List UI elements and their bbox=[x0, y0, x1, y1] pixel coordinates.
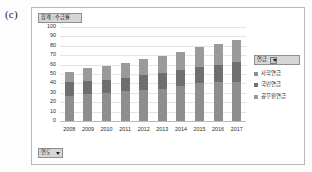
bar-segment[interactable] bbox=[83, 94, 92, 121]
y-axis-tick-label: 70 bbox=[50, 52, 56, 57]
bar-segment[interactable] bbox=[158, 89, 167, 121]
x-axis-tick-label: 2010 bbox=[101, 127, 113, 132]
bar-segment[interactable] bbox=[214, 65, 223, 83]
legend-item[interactable]: 국민연금 bbox=[254, 82, 300, 87]
legend-item[interactable]: 사학연금 bbox=[254, 71, 300, 76]
bar-segment[interactable] bbox=[176, 52, 185, 70]
bar-segment[interactable] bbox=[139, 75, 148, 90]
legend-swatch-icon bbox=[254, 72, 258, 76]
x-axis-tick-label: 2015 bbox=[194, 127, 206, 132]
bar-segment[interactable] bbox=[65, 82, 74, 96]
chevron-down-icon[interactable] bbox=[270, 57, 277, 64]
bar-segment[interactable] bbox=[121, 78, 130, 91]
bar-column[interactable] bbox=[83, 68, 92, 121]
figure-panel: (c) 합계 : 수급률 010203040506070809010020082… bbox=[0, 0, 312, 172]
bar-column[interactable] bbox=[65, 72, 74, 121]
y-axis-tick-label: 100 bbox=[47, 24, 56, 29]
bar-segment[interactable] bbox=[232, 40, 241, 62]
x-axis-tick-label: 2016 bbox=[212, 127, 224, 132]
bar-segment[interactable] bbox=[158, 73, 167, 89]
bar-segment[interactable] bbox=[158, 56, 167, 73]
y-axis-tick-label: 10 bbox=[50, 109, 56, 114]
bar-segment[interactable] bbox=[83, 81, 92, 94]
bar-column[interactable] bbox=[102, 66, 111, 121]
bar-column[interactable] bbox=[121, 63, 130, 121]
y-axis-tick-label: 80 bbox=[50, 43, 56, 48]
y-axis-tick-label: 90 bbox=[50, 34, 56, 39]
bar-segment[interactable] bbox=[139, 59, 148, 75]
bar-segment[interactable] bbox=[83, 68, 92, 80]
value-field-label: 합계 : 수급률 bbox=[41, 15, 70, 20]
bar-segment[interactable] bbox=[102, 66, 111, 80]
gridline bbox=[60, 27, 246, 28]
y-axis-tick-label: 60 bbox=[50, 62, 56, 67]
bar-segment[interactable] bbox=[214, 82, 223, 121]
legend-swatch-icon bbox=[254, 95, 258, 99]
bar-segment[interactable] bbox=[214, 44, 223, 65]
bar-column[interactable] bbox=[195, 47, 204, 121]
bar-segment[interactable] bbox=[176, 86, 185, 121]
legend-swatch-icon bbox=[254, 83, 258, 87]
row-field-label: 연도 bbox=[41, 150, 51, 155]
x-axis-tick-label: 2014 bbox=[175, 127, 187, 132]
bar-column[interactable] bbox=[214, 44, 223, 121]
x-axis-tick-label: 2009 bbox=[82, 127, 94, 132]
y-axis-tick-label: 20 bbox=[50, 99, 56, 104]
bar-segment[interactable] bbox=[102, 93, 111, 121]
bar-segment[interactable] bbox=[195, 67, 204, 84]
y-axis-tick-label: 50 bbox=[50, 71, 56, 76]
legend-field-button[interactable]: 연금 bbox=[254, 55, 300, 65]
plot-area: 0102030405060708090100200820092010201120… bbox=[60, 27, 246, 122]
x-axis-tick-label: 2011 bbox=[119, 127, 131, 132]
legend-field-label: 연금 bbox=[257, 57, 267, 62]
pivot-chart-frame: 합계 : 수급률 0102030405060708090100200820092… bbox=[31, 7, 305, 165]
legend-item[interactable]: 공무원연금 bbox=[254, 94, 300, 99]
bar-column[interactable] bbox=[176, 52, 185, 121]
x-axis-tick-label: 2013 bbox=[156, 127, 168, 132]
legend-item-label: 공무원연금 bbox=[261, 94, 286, 99]
y-axis-tick-label: 40 bbox=[50, 81, 56, 86]
legend-item-label: 국민연금 bbox=[261, 82, 281, 87]
x-axis-tick-label: 2008 bbox=[63, 127, 75, 132]
legend: 연금 사학연금국민연금공무원연금 bbox=[254, 55, 300, 99]
bar-segment[interactable] bbox=[121, 91, 130, 121]
bar-segment[interactable] bbox=[195, 83, 204, 121]
x-axis-tick-label: 2012 bbox=[138, 127, 150, 132]
category-axis-line bbox=[60, 121, 246, 122]
panel-label: (c) bbox=[5, 8, 18, 20]
chevron-down-icon[interactable] bbox=[56, 152, 60, 155]
bar-column[interactable] bbox=[139, 59, 148, 121]
value-field-button[interactable]: 합계 : 수급률 bbox=[38, 13, 82, 23]
bar-column[interactable] bbox=[232, 40, 241, 121]
bar-segment[interactable] bbox=[65, 96, 74, 121]
legend-item-label: 사학연금 bbox=[261, 71, 281, 76]
y-axis-tick-label: 30 bbox=[50, 90, 56, 95]
bar-column[interactable] bbox=[158, 56, 167, 121]
gridline bbox=[60, 36, 246, 37]
y-axis-tick-label: 0 bbox=[53, 118, 56, 123]
x-axis-tick-label: 2017 bbox=[231, 127, 243, 132]
bar-segment[interactable] bbox=[195, 47, 204, 67]
bar-segment[interactable] bbox=[176, 70, 185, 86]
bar-segment[interactable] bbox=[139, 90, 148, 121]
row-field-button[interactable]: 연도 bbox=[38, 148, 63, 158]
bar-segment[interactable] bbox=[65, 72, 74, 81]
bar-segment[interactable] bbox=[102, 80, 111, 93]
bar-segment[interactable] bbox=[232, 82, 241, 121]
bar-segment[interactable] bbox=[121, 63, 130, 78]
bar-segment[interactable] bbox=[232, 62, 241, 82]
